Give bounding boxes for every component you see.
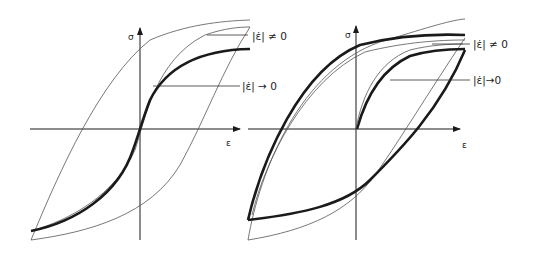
left-legend-rate-nonzero: |ε̇| ≠ 0 <box>252 30 287 43</box>
right-legend-rate-nonzero: |ε̇| ≠ 0 <box>473 38 508 51</box>
right-sigma-label: σ <box>345 30 351 40</box>
diagram-canvas: σ ε |ε̇| ≠ 0 |ε̇| → 0 <box>0 0 537 261</box>
right-initial-loading-thick <box>357 49 465 129</box>
left-legend-rate-zero: |ε̇| → 0 <box>242 80 277 93</box>
right-panel: σ ε |ε̇| ≠ 0 |ε̇|→0 <box>248 19 508 240</box>
left-panel: σ ε |ε̇| ≠ 0 |ε̇| → 0 <box>30 20 287 240</box>
right-epsilon-label: ε <box>462 140 467 150</box>
left-epsilon-label: ε <box>226 138 231 148</box>
left-sigma-label: σ <box>128 32 134 42</box>
stress-strain-figure: σ ε |ε̇| ≠ 0 |ε̇| → 0 <box>0 0 537 261</box>
right-legend-rate-zero: |ε̇|→0 <box>473 74 501 87</box>
